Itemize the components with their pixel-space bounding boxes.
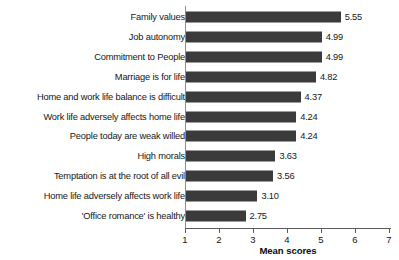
bar <box>186 51 322 62</box>
bar <box>186 91 301 102</box>
bar-row: Job autonomy4.99 <box>0 28 399 46</box>
y-axis-line <box>185 6 186 228</box>
bar <box>186 111 296 122</box>
bar <box>186 31 322 42</box>
bar-value-label: 4.82 <box>320 71 337 82</box>
x-tick-mark <box>389 229 390 233</box>
bar <box>186 71 316 82</box>
bar-row: People today are weak willed4.24 <box>0 127 399 145</box>
category-label: 'Office romance' is healthy <box>82 211 185 222</box>
x-tick-label: 6 <box>352 234 357 245</box>
bar-value-label: 4.24 <box>300 131 317 142</box>
x-tick-mark <box>321 229 322 233</box>
x-tick-mark <box>253 229 254 233</box>
category-label: People today are weak willed <box>70 131 185 142</box>
bar <box>186 12 341 23</box>
bar-value-label: 4.24 <box>300 111 317 122</box>
bar-row: Work life adversely affects home life4.2… <box>0 108 399 126</box>
category-label: Home life adversely affects work life <box>44 191 185 202</box>
category-label: Job autonomy <box>129 31 185 42</box>
x-tick-label: 1 <box>182 234 187 245</box>
bar-value-label: 4.99 <box>326 31 343 42</box>
bar-row: Temptation is at the root of all evil3.5… <box>0 167 399 185</box>
x-tick-label: 2 <box>216 234 221 245</box>
bar-value-label: 4.99 <box>326 51 343 62</box>
category-label: Home and work life balance is difficult <box>37 91 185 102</box>
bar-row: Commitment to People4.99 <box>0 48 399 66</box>
x-axis-line <box>185 228 391 229</box>
category-label: Marriage is for life <box>115 71 185 82</box>
x-tick-mark <box>219 229 220 233</box>
category-label: Work life adversely affects home life <box>43 111 185 122</box>
bar <box>186 171 273 182</box>
bar-value-label: 2.75 <box>250 211 267 222</box>
category-label: Commitment to People <box>94 51 185 62</box>
bar-chart: Family values5.55Job autonomy4.99Commitm… <box>0 0 399 260</box>
x-axis-title: Mean scores <box>186 245 390 256</box>
bar <box>186 211 246 222</box>
bar-value-label: 3.56 <box>277 171 294 182</box>
bar <box>186 191 257 202</box>
bar-row: 'Office romance' is healthy2.75 <box>0 207 399 225</box>
bar <box>186 151 275 162</box>
bar-value-label: 4.37 <box>305 91 322 102</box>
category-label: Temptation is at the root of all evil <box>54 171 185 182</box>
category-label: High morals <box>137 151 185 162</box>
bar-row: Home and work life balance is difficult4… <box>0 88 399 106</box>
bar-value-label: 3.63 <box>279 151 296 162</box>
bar-row: Marriage is for life4.82 <box>0 68 399 86</box>
x-tick-mark <box>355 229 356 233</box>
category-label: Family values <box>131 12 185 23</box>
plot-area: Family values5.55Job autonomy4.99Commitm… <box>0 0 399 260</box>
x-tick-label: 4 <box>284 234 289 245</box>
x-tick-label: 5 <box>318 234 323 245</box>
bar-row: Home life adversely affects work life3.1… <box>0 187 399 205</box>
bar <box>186 131 296 142</box>
bar-row: High morals3.63 <box>0 147 399 165</box>
x-tick-mark <box>287 229 288 233</box>
x-tick-mark <box>185 229 186 233</box>
x-tick-label: 7 <box>386 234 391 245</box>
x-tick-label: 3 <box>250 234 255 245</box>
bar-row: Family values5.55 <box>0 8 399 26</box>
bar-value-label: 3.10 <box>261 191 278 202</box>
bar-value-label: 5.55 <box>345 12 362 23</box>
